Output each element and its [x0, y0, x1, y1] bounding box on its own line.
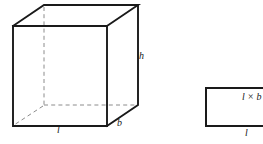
- cuboid-top-face: [13, 5, 138, 26]
- hidden-edge-bottom-left-depth: [14, 106, 43, 125]
- geometry-figure: h b l l × b l: [0, 0, 263, 144]
- cuboid-height-label: h: [139, 51, 144, 61]
- cuboid-breadth-label: b: [117, 118, 122, 128]
- cuboid-visible-edges: [13, 5, 138, 126]
- figure-canvas: [0, 0, 263, 144]
- rectangle-length-label: l: [245, 128, 248, 138]
- cuboid-front-face: [13, 26, 107, 126]
- cuboid-hidden-edges: [14, 7, 137, 125]
- cuboid-length-label: l: [57, 125, 60, 135]
- rectangle-area-label: l × b: [242, 92, 262, 102]
